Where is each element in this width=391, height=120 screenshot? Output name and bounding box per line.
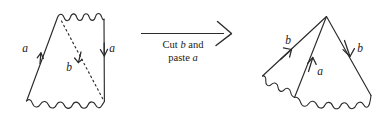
transform-group: Cut b and paste a: [141, 22, 232, 64]
left-figure-cut-arrow-icon: [75, 52, 82, 63]
left-figure-left-edge: [27, 18, 58, 102]
left-figure-group: a a b: [22, 14, 115, 109]
right-figure-label-b-left: b: [285, 34, 291, 46]
left-figure-right-edge-arrow-down-icon: [100, 43, 107, 56]
left-figure-label-a-right: a: [109, 42, 115, 54]
caption-2-symbol: a: [192, 52, 197, 63]
left-figure-label-b-diagonal: b: [66, 61, 72, 73]
caption-2-prefix: paste: [168, 52, 192, 63]
right-figure-label-a-middle: a: [317, 65, 323, 77]
diagram-canvas: a a b Cut b and paste a: [0, 0, 391, 120]
right-figure-label-b-right: b: [357, 42, 363, 54]
left-figure-top-wavy-edge: [58, 14, 105, 21]
right-figure-left-bottom-wavy-edge: [263, 76, 295, 98]
left-figure-bottom-wavy-edge: [27, 100, 105, 109]
right-figure-bottom-wavy-edge: [295, 96, 372, 109]
left-figure-label-a-left: a: [22, 42, 28, 54]
right-figure-middle-edge: [295, 17, 327, 98]
transform-caption-line-2: paste a: [168, 52, 197, 63]
transform-caption-line-1: Cut b and: [163, 39, 205, 50]
caption-1-suffix: and: [186, 39, 205, 50]
caption-1-prefix: Cut: [163, 39, 181, 50]
right-figure-group: b a b: [263, 17, 372, 109]
diagram-figure: a a b Cut b and paste a: [0, 0, 391, 120]
